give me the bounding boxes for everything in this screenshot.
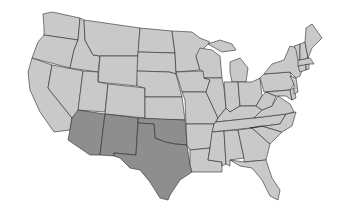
state-pennsylvania[interactable] xyxy=(260,72,294,92)
state-florida[interactable] xyxy=(230,160,280,200)
state-arkansas[interactable] xyxy=(186,124,214,150)
state-montana[interactable] xyxy=(84,20,140,56)
state-maine[interactable] xyxy=(305,24,322,58)
us-map xyxy=(0,0,353,220)
state-south-dakota[interactable] xyxy=(137,52,176,74)
map-states xyxy=(28,12,322,200)
state-wyoming[interactable] xyxy=(98,56,138,86)
state-north-dakota[interactable] xyxy=(138,28,175,53)
state-kansas[interactable] xyxy=(145,97,185,120)
state-colorado[interactable] xyxy=(105,84,145,118)
state-new-mexico[interactable] xyxy=(100,114,138,156)
state-rhode-island[interactable] xyxy=(306,64,309,70)
state-arizona[interactable] xyxy=(68,110,105,155)
